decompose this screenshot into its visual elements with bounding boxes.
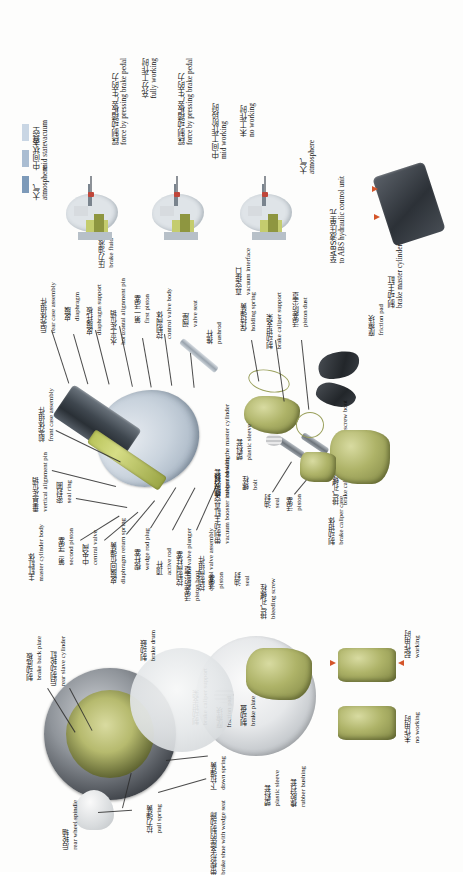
leader-line — [95, 330, 109, 385]
label-valve-seat: 阀座 valve seat — [184, 300, 198, 327]
brake-plate-cn: 制动盘 — [242, 696, 249, 726]
working-arrow-left — [330, 660, 336, 666]
label-control-valve-body: 控制阀体 control valve body — [158, 288, 172, 339]
working-arrow-right — [398, 660, 404, 666]
label-rubber-bushing-upper: 橡胶衬套 rubber bushing — [216, 456, 230, 497]
rear-slave-cylinder-en: rear slave cylinder — [59, 636, 66, 686]
label-brake-drum: 制动鼓 brake drum — [142, 630, 156, 661]
abs-hydraulic-unit-art — [372, 161, 446, 246]
leader-line — [164, 334, 172, 386]
label-wedge-rod-plug: 楔杆塞 wedge rod plug — [136, 528, 150, 570]
brake-caliper-case-en: brake caliper case — [337, 496, 344, 545]
wedge-rod-plug-cn: 楔杆塞 — [136, 528, 143, 570]
seal-ring-en: seal ring — [65, 480, 72, 503]
seal-upper-en: seal — [273, 494, 280, 508]
label-working: 起作用时 working — [406, 630, 420, 658]
state-1-force-en: force by pressing brake pedal — [186, 58, 194, 145]
piston-upper-en: piston — [295, 494, 302, 511]
brake-back-plate-en: brake back plate — [35, 636, 42, 681]
label-brake-plate: 制动盘 brake plate — [242, 696, 256, 726]
piston-boot-lower-cn: 活塞防尘罩 — [186, 566, 193, 601]
brake-plate-en: brake plate — [249, 696, 256, 726]
horizontal-alignment-pin-cn: 水平定位销 — [112, 278, 119, 345]
label-pushrod: 推杆 pushrod — [208, 322, 222, 344]
working-cn: 起作用时 — [406, 630, 413, 658]
master-cylinder-body-en: master cylinder body — [37, 524, 44, 581]
friction-pad-art-upper — [315, 347, 363, 384]
label-seal-lower: 油封 seal — [236, 572, 250, 586]
master-cylinder-body-cn: 主缸缸体 — [30, 524, 37, 581]
booster-cutaway-fully-working — [64, 176, 126, 262]
no-working-caliper-art — [338, 706, 396, 740]
rear-slave-cylinder-cn: 后制动轮缸 — [52, 636, 59, 686]
label-front-case-assembly: 前壳体组件 front case assembly — [40, 388, 54, 442]
first-piston-en: first piston — [143, 294, 150, 323]
abs-port-arrow-1 — [372, 186, 378, 192]
label-pull-spring: 拉力弹簧 pull spring — [148, 804, 162, 833]
label-bleeding-screw: 排气孔螺栓 bleeding screw — [262, 578, 276, 619]
brake-back-plate-art — [130, 648, 234, 752]
second-piston-en: second piston — [67, 528, 74, 565]
state-1-mode-en: mid working — [220, 103, 228, 159]
abs-unit-en: to ABS hydraulic control unit — [338, 176, 346, 263]
leader-line — [166, 756, 208, 761]
label-no-working-lower: 未作用时 no working — [406, 712, 420, 743]
control-valve-body-en: control valve body — [165, 288, 172, 339]
piston-boot-art-1 — [266, 434, 282, 446]
label-piston-dust: 活塞防尘罩 piston dust — [294, 292, 308, 327]
label-rear-slave-cylinder: 后制动轮缸 rear slave cylinder — [52, 636, 66, 686]
label-seal-upper: 油封 seal — [266, 494, 280, 508]
brake-back-plate-cn: 制动底板 — [28, 636, 35, 681]
diaphragm-support-cn: 皮膜托板 — [88, 284, 95, 335]
label-second-piston: 第二活塞 second piston — [60, 528, 74, 565]
front-case-assembly-cn: 前壳体组件 — [40, 388, 47, 442]
active-rod-cn: 顶杆 — [158, 548, 165, 575]
holding-spring-art — [246, 366, 292, 396]
brake-drum-en: brake drum — [149, 630, 156, 661]
label-atmosphere-right: 大气 atmosphere — [300, 140, 316, 174]
label-brake-caliper-case: 制动钳体 brake caliper case — [330, 496, 344, 545]
seal-lower-cn: 油封 — [236, 572, 243, 586]
vertical-alignment-pin-en: vertical alignment pin — [41, 452, 48, 512]
rear-wheel-spindle-cn: 后轮轴 — [64, 800, 71, 850]
label-plastic-sleeve-lower: 塑料套 plastic sleeve — [266, 770, 280, 806]
pushrod-cn: 推杆 — [208, 322, 215, 344]
control-valve-assembly-cn: 控制阀组件 — [200, 528, 207, 591]
state-mid-working-force: 踩制动踏板产生的力 force by pressing brake pedal — [178, 58, 194, 145]
brake-shoe-wedge-seat-cn: 带楔形支座的制动蹄 — [212, 800, 219, 875]
leader-line — [76, 498, 127, 508]
legend-atmosphere-en: atmosphere — [41, 166, 49, 200]
label-piston-upper: 活塞 piston — [288, 494, 302, 511]
seal-ring-art — [296, 412, 324, 438]
friction-pad-upper-cn: 摩擦块 — [370, 304, 377, 336]
valve-seat-en: valve seat — [191, 300, 198, 327]
control-valve-plunger-cn: 控制阀柱塞 — [178, 528, 185, 586]
label-rubber-bushing-lower: 橡胶衬套 rubber bushing — [292, 766, 306, 807]
label-vertical-alignment-pin: 垂直定位销 vertical alignment pin — [34, 452, 48, 512]
atmosphere-right-en: atmosphere — [308, 140, 316, 174]
label-down-spring: 下拉弹簧 down spring — [212, 756, 226, 790]
friction-pad-upper-en: friction pad — [377, 304, 384, 336]
rear-case-assembly-en: rear case assembly — [49, 282, 56, 333]
state-0-mode-en: fully working — [150, 58, 158, 98]
valve-seat-cn: 阀座 — [184, 300, 191, 327]
brake-caliper-support-upper-cn: 制动钳支架 — [268, 292, 275, 349]
leader-line — [301, 340, 309, 410]
down-spring-cn: 下拉弹簧 — [212, 756, 219, 790]
piston-dust-en: piston dust — [301, 292, 308, 327]
label-rear-case-assembly: 后壳体组件 rear case assembly — [42, 282, 56, 333]
diaphragm-return-spring-en: diaphragm return spring — [119, 518, 126, 584]
brake-caliper-case-cn: 制动钳体 — [330, 496, 337, 545]
lower-caliper-art — [246, 648, 312, 700]
diaphragm-support-en: diaphragm support — [95, 284, 102, 335]
piston-boot-lower-en: piston boot — [193, 566, 200, 601]
wedge-rod-plug-en: wedge rod plug — [143, 528, 150, 570]
label-plastic-sleeve-upper: 塑料套 plastic sleeve — [238, 424, 252, 460]
diaphragm-cn: 皮膜 — [66, 292, 73, 321]
pushrod-en: pushrod — [215, 322, 222, 344]
label-bolt: 螺栓 bolt — [244, 476, 258, 490]
down-spring-en: down spring — [219, 756, 226, 790]
state-no-working: 未工作时 no working — [240, 103, 256, 137]
front-case-assembly-en: front case assembly — [47, 388, 54, 442]
holding-spring-en: holding spring — [249, 292, 256, 331]
